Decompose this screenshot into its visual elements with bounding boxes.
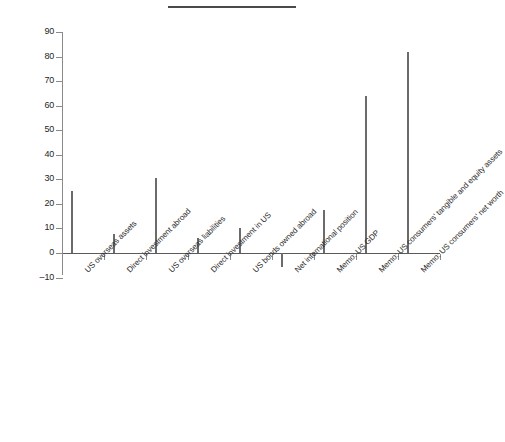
y-tick-label: 10 — [18, 223, 54, 232]
y-tick-label-text: 20 — [24, 199, 54, 208]
y-tick-label-text: 50 — [24, 125, 54, 134]
y-tick-mark — [56, 179, 63, 180]
y-tick-label-text: 40 — [24, 150, 54, 159]
y-tick-mark — [56, 155, 63, 156]
y-tick-label: 50 — [18, 125, 54, 134]
y-tick-mark — [56, 130, 63, 131]
y-tick-label: 40 — [18, 150, 54, 159]
y-tick-label-text: 10 — [24, 223, 54, 232]
y-tick-mark — [56, 106, 63, 107]
x-axis-label: Memo: US consumers' net worth — [419, 188, 505, 274]
y-tick-label-text: –10 — [24, 273, 54, 282]
y-tick-label-text: 90 — [24, 27, 54, 36]
y-tick-label-text: 70 — [24, 76, 54, 85]
plot-area: 9080706050403020100–10 US overseas asset… — [0, 0, 465, 300]
y-tick-label-text: 60 — [24, 101, 54, 110]
y-tick-label: 70 — [18, 76, 54, 85]
x-axis-label: Memo: US GDP — [335, 228, 381, 274]
y-tick-label: 0 — [18, 248, 54, 257]
bar — [71, 191, 73, 253]
y-tick-label: 30 — [18, 174, 54, 183]
y-tick-mark — [56, 278, 63, 279]
bar — [407, 52, 409, 253]
y-tick-mark — [56, 57, 63, 58]
y-tick-label: 60 — [18, 101, 54, 110]
x-axis-zero-line — [62, 253, 440, 254]
y-tick-label: 90 — [18, 27, 54, 36]
y-axis-line — [62, 32, 63, 275]
bar — [365, 96, 367, 253]
y-tick-label-text: 0 — [24, 248, 54, 257]
y-tick-mark — [56, 81, 63, 82]
x-tick-mark — [62, 254, 63, 260]
y-tick-label: 80 — [18, 52, 54, 61]
bar — [281, 253, 283, 267]
y-tick-label-text: 80 — [24, 52, 54, 61]
y-tick-label: –10 — [18, 273, 54, 282]
y-tick-mark — [56, 204, 63, 205]
y-tick-mark — [56, 228, 63, 229]
y-tick-mark — [56, 32, 63, 33]
y-tick-label-text: 30 — [24, 174, 54, 183]
y-tick-label: 20 — [18, 199, 54, 208]
